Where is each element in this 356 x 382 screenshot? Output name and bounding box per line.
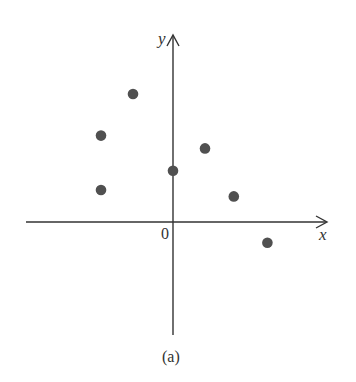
- data-point: [128, 89, 139, 100]
- axes: [26, 35, 327, 335]
- data-points: [96, 89, 273, 248]
- y-axis-label: y: [156, 29, 166, 48]
- x-axis-label: x: [318, 225, 327, 244]
- figure-caption: (a): [162, 348, 180, 366]
- data-point: [96, 130, 107, 141]
- data-point: [96, 185, 107, 196]
- data-point: [200, 143, 211, 154]
- scatter-plot: y x 0 (a): [0, 0, 356, 382]
- origin-label: 0: [161, 225, 169, 242]
- data-point: [168, 166, 179, 177]
- data-point: [262, 238, 273, 249]
- data-point: [229, 191, 240, 202]
